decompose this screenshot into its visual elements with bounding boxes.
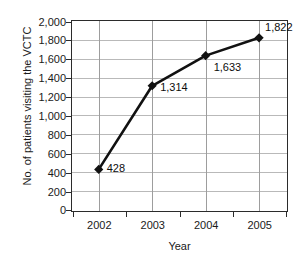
x-axis-tick-label: 2002 (72, 220, 126, 231)
y-axis-tick-label: 1,600 (22, 54, 66, 65)
x-axis-tick (233, 212, 234, 217)
y-axis-tick-label: 2,000 (22, 16, 66, 27)
x-axis-tick (126, 212, 127, 217)
series-polyline (99, 38, 259, 170)
y-axis-tick-labels: 02004006008001,0001,2001,4001,6001,8002,… (22, 14, 66, 212)
y-axis-tick-label: 1,200 (22, 92, 66, 103)
y-axis-tick-label: 1,800 (22, 35, 66, 46)
data-point-label: 1,314 (160, 82, 188, 93)
y-axis-tick-label: 400 (22, 167, 66, 178)
x-axis-tick-label: 2004 (179, 220, 233, 231)
data-point-label: 1,822 (265, 22, 293, 33)
x-axis-tick-label: 2003 (126, 220, 180, 231)
x-axis-tick (73, 212, 74, 217)
y-axis-tick-label: 800 (22, 129, 66, 140)
x-axis-tick (180, 212, 181, 217)
series-line (72, 21, 289, 213)
y-axis-tick-label: 1,400 (22, 73, 66, 84)
data-point-label: 1,633 (214, 62, 242, 73)
x-axis-title: Year (71, 240, 288, 252)
data-point-label: 428 (107, 163, 125, 174)
y-axis-tick-label: 200 (22, 186, 66, 197)
y-axis-tick-label: 0 (22, 205, 66, 216)
y-axis-tick-label: 600 (22, 148, 66, 159)
x-axis-tick (286, 212, 287, 217)
plot-area: 4281,3141,6331,822 (71, 20, 288, 212)
plot-inner: 4281,3141,6331,822 (72, 21, 287, 211)
data-point-marker (254, 33, 263, 42)
y-axis-tick-label: 1,000 (22, 111, 66, 122)
x-axis-tick-label: 2005 (233, 220, 287, 231)
line-chart: No. of patients visiting the VCTC 020040… (0, 0, 304, 264)
